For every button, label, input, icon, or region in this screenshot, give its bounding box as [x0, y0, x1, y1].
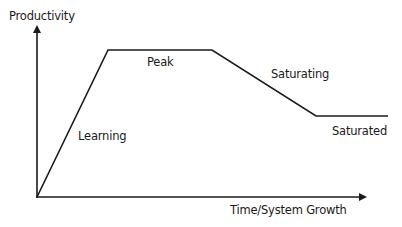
phase-label-saturated: Saturated [332, 124, 387, 138]
diagram-canvas [0, 0, 402, 227]
phase-label-saturating: Saturating [271, 67, 329, 81]
phase-label-peak: Peak [147, 55, 174, 69]
phase-label-learning: Learning [78, 129, 126, 143]
x-axis-label: Time/System Growth [230, 203, 347, 217]
y-axis-label: Productivity [9, 9, 75, 23]
